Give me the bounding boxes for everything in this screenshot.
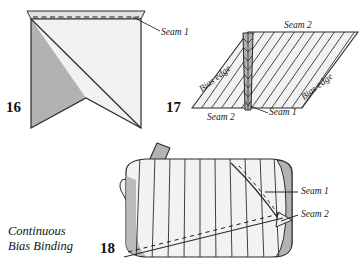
figure-18-number: 18 xyxy=(100,240,115,257)
figure-16-drawing xyxy=(27,11,160,128)
figure-17-number: 17 xyxy=(166,99,181,116)
figure-16-number: 16 xyxy=(6,99,21,116)
figure-17-drawing xyxy=(186,24,360,116)
figure-18-drawing xyxy=(120,143,298,262)
caption-line-2: Bias Binding xyxy=(8,239,73,253)
fig17-label-seam-2-top: Seam 2 xyxy=(284,20,312,30)
caption-line-1: Continuous xyxy=(8,224,66,238)
fig16-top-strip xyxy=(27,11,145,19)
fig18-tube-body xyxy=(126,159,292,257)
fig18-label-seam-1: Seam 1 xyxy=(301,186,329,196)
fig18-label-seam-2: Seam 2 xyxy=(301,209,329,219)
diagram-page: 16 17 18 Continuous Bias Binding Seam 1 … xyxy=(0,0,362,267)
fig16-label-seam-1: Seam 1 xyxy=(161,27,189,37)
fig17-label-seam-1-right: Seam 1 xyxy=(269,107,297,117)
fig17-label-seam-2-bottom: Seam 2 xyxy=(207,112,235,122)
